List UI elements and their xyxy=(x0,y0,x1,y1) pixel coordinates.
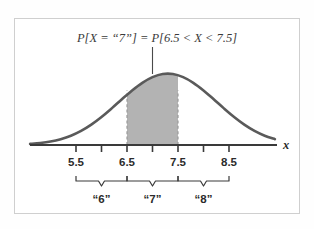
interval-brace: “8” xyxy=(178,176,229,205)
title-equation: P[X = “7”] = P[6.5 < X < 7.5] xyxy=(76,31,237,45)
brace-label: “6” xyxy=(93,193,111,205)
brace-label: “8” xyxy=(195,193,213,205)
x-axis-tick-label: 8.5 xyxy=(221,156,238,168)
interval-braces: “6”“7”“8” xyxy=(76,176,229,205)
brace-path xyxy=(76,176,127,186)
x-axis-tick-labels: 5.56.57.58.5 xyxy=(68,156,238,168)
interval-brace: “6” xyxy=(76,176,127,205)
shaded-region xyxy=(30,74,275,145)
normal-distribution-chart: P[X = “7”] = P[6.5 < X < 7.5] x 5.56.57.… xyxy=(0,0,314,229)
x-axis-label: x xyxy=(282,138,289,152)
x-axis-tick-label: 7.5 xyxy=(170,156,187,168)
x-axis-tick-label: 5.5 xyxy=(68,156,85,168)
brace-path xyxy=(178,176,229,186)
figure-root: P[X = “7”] = P[6.5 < X < 7.5] x 5.56.57.… xyxy=(0,0,314,229)
x-axis-tick-label: 6.5 xyxy=(119,156,136,168)
brace-path xyxy=(127,176,178,186)
x-axis-ticks xyxy=(76,145,229,152)
interval-brace: “7” xyxy=(127,176,178,205)
brace-label: “7” xyxy=(144,193,162,205)
